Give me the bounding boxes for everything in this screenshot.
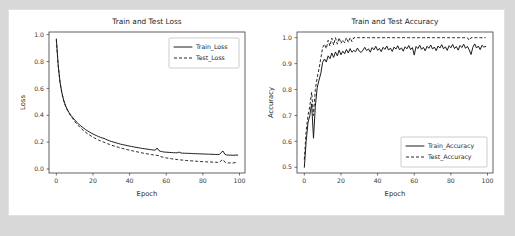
- x-tick-label: 100: [234, 177, 246, 184]
- y-tick-label: 0.9: [282, 60, 292, 67]
- x-axis-label: Epoch: [137, 190, 158, 198]
- y-tick-label: 0.8: [34, 58, 44, 65]
- x-tick-label: 0: [54, 177, 58, 184]
- y-tick-label: 1.0: [34, 31, 44, 38]
- x-tick-label: 20: [89, 177, 97, 184]
- chart-legend: Train_LossTest_Loss: [169, 38, 239, 68]
- y-tick-label: 0.2: [34, 138, 44, 145]
- x-axis-label: Epoch: [384, 190, 405, 198]
- y-tick-label: 0.8: [282, 86, 292, 93]
- chart-title: Train and Test Loss: [111, 17, 182, 26]
- y-axis-label: Accuracy: [267, 87, 275, 118]
- panel-container: Train and Test Loss0204060801000.00.20.4…: [9, 10, 504, 215]
- y-tick-label: 1.0: [282, 34, 292, 41]
- x-tick-label: 40: [373, 177, 381, 184]
- loss-panel: Train and Test Loss0204060801000.00.20.4…: [9, 10, 257, 215]
- legend-label-train_loss: Train_Loss: [195, 43, 228, 51]
- x-tick-label: 100: [481, 177, 493, 184]
- y-tick-label: 0.4: [34, 111, 44, 118]
- y-tick-label: 0.6: [34, 85, 44, 92]
- accuracy-chart: Train and Test Accuracy0204060801000.50.…: [257, 10, 505, 215]
- loss-chart: Train and Test Loss0204060801000.00.20.4…: [9, 10, 257, 215]
- x-tick-label: 60: [410, 177, 418, 184]
- x-tick-label: 20: [337, 177, 345, 184]
- legend-label-test_accuracy: Test_Accuracy: [427, 153, 472, 161]
- x-tick-label: 60: [162, 177, 170, 184]
- x-tick-label: 80: [199, 177, 207, 184]
- accuracy-panel: Train and Test Accuracy0204060801000.50.…: [257, 10, 505, 215]
- x-tick-label: 0: [302, 177, 306, 184]
- x-tick-label: 40: [126, 177, 134, 184]
- figure-canvas: Train and Test Loss0204060801000.00.20.4…: [8, 9, 505, 216]
- x-tick-label: 80: [446, 177, 454, 184]
- legend-label-test_loss: Test_Loss: [195, 54, 225, 62]
- y-tick-label: 0.6: [282, 138, 292, 145]
- legend-label-train_accuracy: Train_Accuracy: [427, 142, 475, 150]
- y-tick-label: 0.5: [282, 163, 292, 170]
- y-tick-label: 0.0: [34, 165, 44, 172]
- chart-title: Train and Test Accuracy: [350, 17, 439, 26]
- chart-legend: Train_AccuracyTest_Accuracy: [401, 137, 487, 167]
- y-tick-label: 0.7: [282, 112, 292, 119]
- y-axis-label: Loss: [19, 95, 27, 110]
